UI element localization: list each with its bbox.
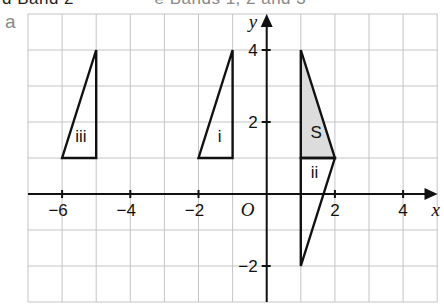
x-tick-label: 4: [398, 201, 407, 220]
x-tick-label: −4: [117, 201, 136, 220]
x-axis-label: x: [431, 199, 441, 220]
x-tick-label: −6: [48, 201, 67, 220]
x-tick-label: 2: [330, 201, 339, 220]
y-axis-arrow-icon: [261, 14, 273, 27]
triangle-i: [199, 50, 233, 158]
triangle-label-ii: ii: [311, 163, 319, 182]
origin-label: O: [241, 199, 255, 220]
y-axis-label: y: [247, 11, 258, 32]
coordinate-grid: Siiiiii −6−4−22442−2Oxy: [0, 0, 444, 304]
axis-labels: −6−4−22442−2Oxy: [48, 11, 440, 276]
triangle-label-i: i: [218, 127, 222, 146]
x-tick-label: −2: [185, 201, 204, 220]
triangle-label-S: S: [310, 123, 321, 142]
y-tick-label: 4: [248, 41, 257, 60]
y-tick-label: 2: [248, 113, 257, 132]
triangle-label-iii: iii: [75, 127, 86, 146]
y-tick-label: −2: [238, 257, 257, 276]
